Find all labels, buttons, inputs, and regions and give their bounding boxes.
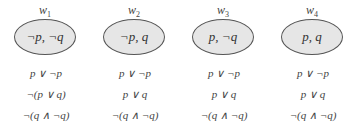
valuation-text: ¬p, ¬q <box>26 29 63 45</box>
world-label-letter: w <box>128 3 136 17</box>
world-label: w1 <box>0 3 90 19</box>
formula: ¬(q ∧ ¬q) <box>10 109 82 122</box>
world-label-index: 3 <box>225 10 229 19</box>
world-label: w2 <box>89 3 179 19</box>
formula: p ∨ ¬p <box>99 67 171 80</box>
world-valuation-ellipse: p, q <box>281 19 343 55</box>
world-valuation-ellipse: ¬p, ¬q <box>14 19 76 55</box>
formula: ¬(p ∨ q) <box>10 88 82 101</box>
formula: p ∨ ¬p <box>10 67 82 80</box>
world-label-letter: w <box>217 3 225 17</box>
formula: ¬(q ∧ ¬q) <box>277 109 349 122</box>
formula: p ∨ q <box>277 88 349 101</box>
world-label: w4 <box>267 3 357 19</box>
world-label-letter: w <box>39 3 47 17</box>
formula: p ∨ q <box>188 88 260 101</box>
formula: p ∨ ¬p <box>188 67 260 80</box>
formula: ¬(q ∧ ¬q) <box>99 109 171 122</box>
world-valuation-ellipse: p, ¬q <box>192 19 254 55</box>
formula: ¬(q ∧ ¬q) <box>188 109 260 122</box>
valuation-text: p, ¬q <box>209 29 237 45</box>
world-label-letter: w <box>306 3 314 17</box>
formula: p ∨ ¬p <box>277 67 349 80</box>
valuation-text: p, q <box>302 29 322 45</box>
valuation-text: ¬p, q <box>120 29 148 45</box>
world-label-index: 1 <box>47 10 51 19</box>
world-label-index: 4 <box>314 10 318 19</box>
formula: p ∨ q <box>99 88 171 101</box>
world-valuation-ellipse: ¬p, q <box>103 19 165 55</box>
world-label: w3 <box>178 3 268 19</box>
world-label-index: 2 <box>136 10 140 19</box>
